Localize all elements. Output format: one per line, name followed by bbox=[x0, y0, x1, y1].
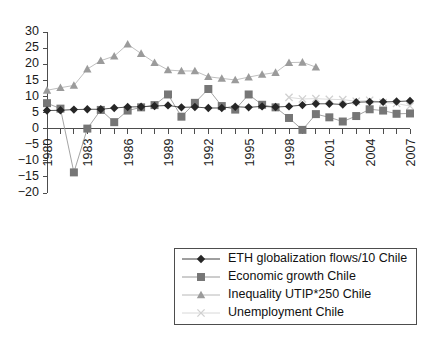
y-tick-label: −10 bbox=[18, 153, 39, 167]
x-tick-label: 1989 bbox=[162, 139, 176, 167]
data-point-diamond bbox=[285, 102, 293, 110]
data-point-square bbox=[406, 109, 414, 117]
x-tick-label: 1995 bbox=[243, 139, 257, 167]
legend-marker-square bbox=[197, 273, 205, 281]
data-point-square bbox=[366, 105, 374, 113]
data-point-triangle bbox=[97, 56, 105, 64]
data-point-triangle bbox=[83, 65, 91, 73]
data-point-square bbox=[197, 273, 205, 281]
x-tick-label: 1986 bbox=[122, 139, 136, 167]
data-point-triangle bbox=[271, 68, 279, 76]
x-tick-label: 2004 bbox=[364, 139, 378, 167]
y-tick-label: 20 bbox=[25, 56, 39, 70]
data-point-diamond bbox=[164, 101, 172, 109]
data-point-square bbox=[393, 110, 401, 118]
y-tick-label: −15 bbox=[18, 169, 39, 183]
data-point-diamond bbox=[70, 105, 78, 113]
data-point-square bbox=[164, 90, 172, 98]
chart-container: 302520151050−5−10−15−20 1980198319861989… bbox=[0, 0, 422, 338]
data-point-triangle bbox=[312, 63, 320, 71]
y-tick-label: 15 bbox=[25, 73, 39, 87]
y-tick-label: 5 bbox=[32, 105, 39, 119]
x-tick-label: 1998 bbox=[283, 139, 297, 167]
series-layer bbox=[43, 40, 414, 176]
data-point-square bbox=[245, 90, 253, 98]
data-point-square bbox=[83, 125, 91, 133]
data-point-diamond bbox=[244, 103, 252, 111]
data-point-square bbox=[298, 126, 306, 134]
legend-item-label[interactable]: Economic growth Chile bbox=[228, 269, 356, 283]
y-axis: 302520151050−5−10−15−20 bbox=[18, 24, 47, 199]
data-point-triangle bbox=[204, 73, 212, 81]
x-tick-label: 1980 bbox=[41, 139, 55, 167]
data-point-square bbox=[352, 112, 360, 120]
y-tick-label: 0 bbox=[32, 121, 39, 135]
data-point-square bbox=[325, 113, 333, 121]
data-point-square bbox=[70, 168, 78, 176]
x-tick-label: 1992 bbox=[202, 139, 216, 167]
x-tick-label: 2001 bbox=[323, 139, 337, 167]
y-tick-label: 25 bbox=[25, 40, 39, 54]
data-point-square bbox=[285, 114, 293, 122]
data-point-diamond bbox=[110, 104, 118, 112]
data-point-square bbox=[204, 85, 212, 93]
data-point-square bbox=[312, 110, 320, 118]
series-triangle bbox=[43, 40, 320, 94]
data-point-diamond bbox=[204, 104, 212, 112]
data-point-diamond bbox=[365, 98, 373, 106]
legend-item-label[interactable]: ETH globalization flows/10 Chile bbox=[228, 251, 407, 265]
y-tick-label: −20 bbox=[18, 185, 39, 199]
data-point-square bbox=[110, 118, 118, 126]
data-point-diamond bbox=[177, 103, 185, 111]
data-point-square bbox=[339, 118, 347, 126]
chart-legend: ETH globalization flows/10 ChileEconomic… bbox=[174, 248, 416, 324]
data-point-triangle bbox=[298, 58, 306, 66]
data-point-triangle bbox=[150, 58, 158, 66]
data-point-triangle bbox=[123, 40, 131, 48]
data-point-square bbox=[177, 113, 185, 121]
y-tick-label: 30 bbox=[25, 24, 39, 38]
data-point-square bbox=[43, 99, 51, 107]
x-tick-label: 2007 bbox=[404, 139, 418, 167]
data-point-diamond bbox=[83, 105, 91, 113]
data-point-diamond bbox=[43, 106, 51, 114]
data-point-square bbox=[379, 107, 387, 115]
line-chart: 302520151050−5−10−15−20 1980198319861989… bbox=[0, 0, 422, 338]
y-tick-label: −5 bbox=[25, 137, 39, 151]
data-point-diamond bbox=[325, 100, 333, 108]
data-point-triangle bbox=[137, 49, 145, 57]
data-point-diamond bbox=[352, 98, 360, 106]
legend-item-label[interactable]: Unemployment Chile bbox=[228, 305, 344, 319]
data-point-diamond bbox=[339, 100, 347, 108]
legend-item-label[interactable]: Inequality UTIP*250 Chile bbox=[228, 287, 371, 301]
y-tick-label: 10 bbox=[25, 89, 39, 103]
data-point-triangle bbox=[164, 66, 172, 74]
x-axis: 1980198319861989199219951998200120042007 bbox=[41, 129, 418, 167]
